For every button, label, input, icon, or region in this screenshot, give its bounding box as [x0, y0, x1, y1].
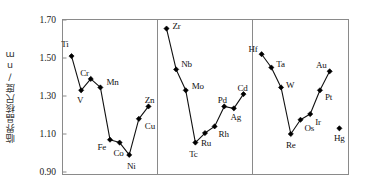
point-label-Mn: Mn	[106, 77, 118, 87]
point-label-Ni: Ni	[127, 161, 136, 171]
data-point-Hg	[337, 126, 342, 131]
data-point-Zr	[164, 26, 169, 31]
point-label-V: V	[77, 95, 83, 105]
data-point-Mo	[183, 88, 188, 93]
data-point-Ir	[308, 111, 313, 116]
point-label-W: W	[286, 80, 294, 90]
series-line-4d-series	[167, 29, 244, 143]
point-label-Cu: Cu	[145, 121, 155, 131]
point-label-Rh: Rh	[219, 129, 229, 139]
point-label-Zr: Zr	[173, 21, 181, 31]
point-label-Cd: Cd	[237, 83, 247, 93]
point-label-Pt: Pt	[325, 92, 332, 102]
point-label-Re: Re	[286, 140, 296, 150]
point-label-Zn: Zn	[145, 95, 155, 105]
point-label-Ti: Ti	[61, 39, 68, 49]
point-label-Ir: Ir	[315, 117, 321, 127]
point-label-Fe: Fe	[97, 142, 106, 152]
plot-area	[0, 0, 366, 193]
data-point-Au	[327, 69, 332, 74]
point-label-Ru: Ru	[201, 138, 211, 148]
data-point-W	[278, 85, 283, 90]
point-label-Ta: Ta	[276, 59, 284, 69]
point-label-Co: Co	[114, 148, 124, 158]
point-label-Pd: Pd	[218, 95, 227, 105]
point-label-Tc: Tc	[189, 149, 197, 159]
chart-figure: 临界晶核尺度/nm 1.70 1.50 1.30 1.10 0.90 TiVCr…	[0, 0, 366, 193]
point-label-Hg: Hg	[334, 133, 345, 143]
point-label-Au: Au	[316, 60, 327, 70]
point-label-Ag: Ag	[231, 112, 242, 122]
data-point-Nb	[174, 67, 179, 72]
point-label-Os: Os	[305, 123, 315, 133]
point-label-Nb: Nb	[181, 59, 192, 69]
point-label-Cr: Cr	[80, 68, 89, 78]
data-point-Pt	[317, 88, 322, 93]
point-label-Hf: Hf	[249, 44, 258, 54]
data-point-Fe	[107, 137, 112, 142]
data-point-Ti	[69, 54, 74, 59]
point-label-Mo: Mo	[192, 81, 204, 91]
